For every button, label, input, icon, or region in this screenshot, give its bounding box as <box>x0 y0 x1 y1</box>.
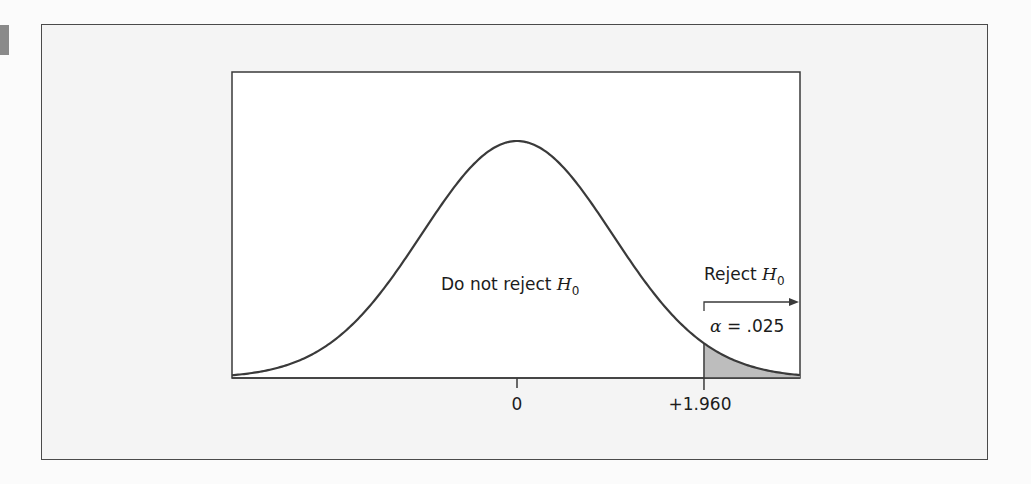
alpha-label: α = .025 <box>710 316 784 336</box>
x-tick-label-zero: 0 <box>512 394 523 414</box>
x-tick-label-critical: +1.960 <box>669 394 732 414</box>
normal-distribution-chart: 0 +1.960 Do not reject H0 Reject H0 α = … <box>0 0 1031 484</box>
